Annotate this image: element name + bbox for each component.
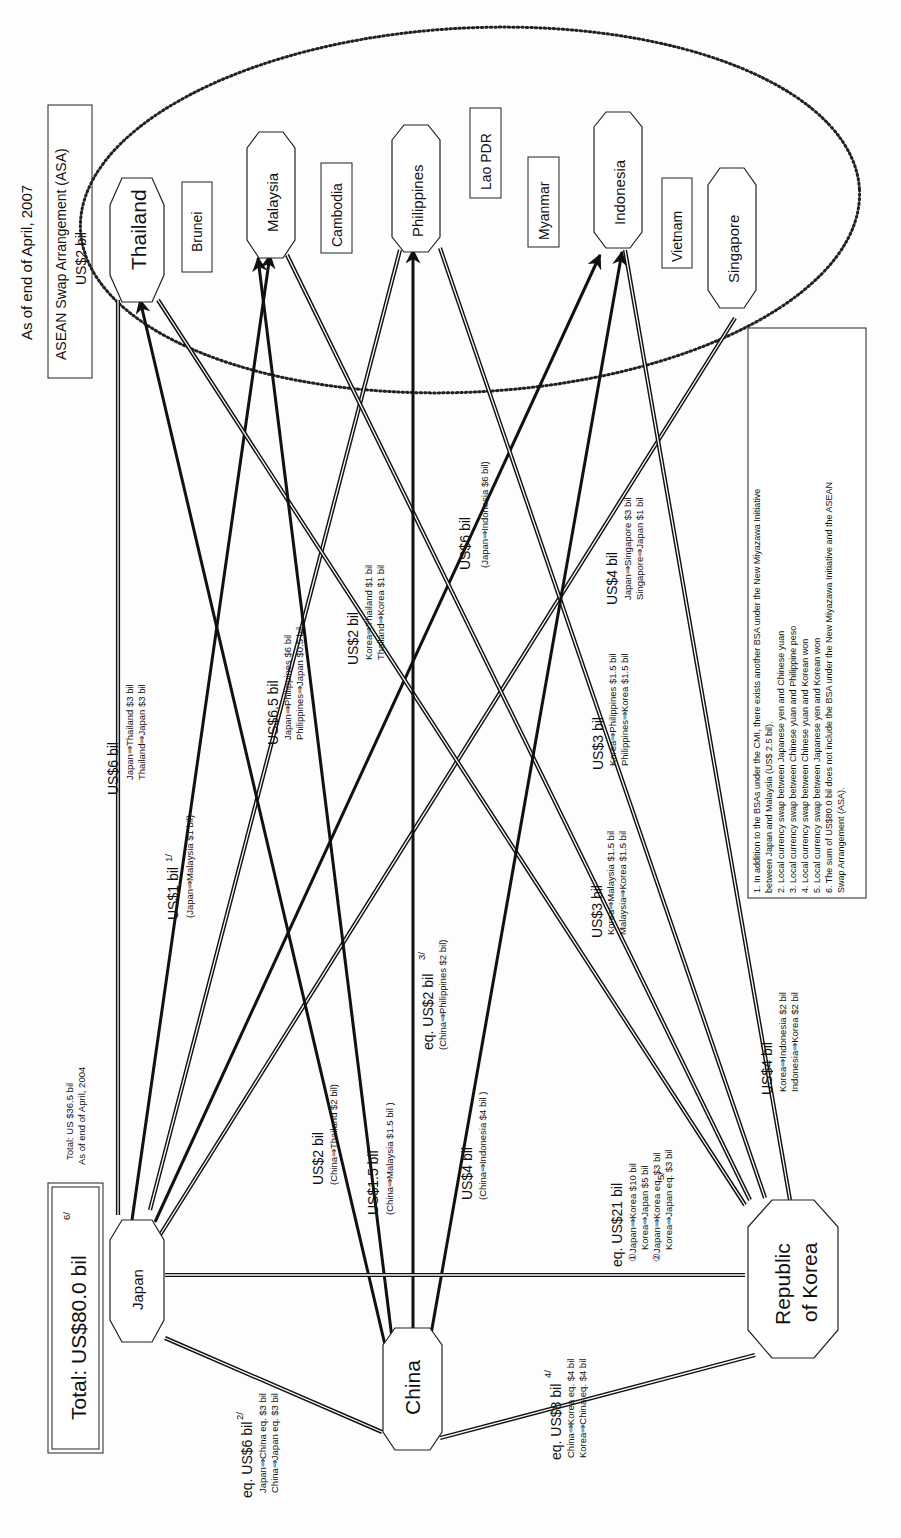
svg-text:Republic: Republic <box>771 1243 794 1325</box>
svg-text:Thailand: Thailand <box>127 189 150 270</box>
node-china: China <box>383 1328 442 1450</box>
label-japan-china: eq. US$6 bil 2/ Japan⇒China eq. $3 bil C… <box>234 1393 280 1498</box>
svg-text:Philippines⇒Japan $0.5 bil: Philippines⇒Japan $0.5 bil <box>294 627 305 740</box>
svg-text:China⇒Japan eq. $3 bil: China⇒Japan eq. $3 bil <box>269 1393 280 1493</box>
svg-text:US$3 bil: US$3 bil <box>590 717 606 770</box>
svg-text:(China⇒Philippines $2 bil): (China⇒Philippines $2 bil) <box>437 940 448 1050</box>
svg-text:2. Local currency swap betwee: 2. Local currency swap between Japanese … <box>776 631 786 893</box>
svg-text:China: China <box>401 1360 424 1415</box>
svg-text:Korea⇒Philippines $1.5 bil: Korea⇒Philippines $1.5 bil <box>607 653 618 766</box>
node-japan: Japan <box>110 1220 164 1342</box>
svg-text:5. Local currency swap betwee: 5. Local currency swap between Japanese … <box>812 638 822 893</box>
svg-text:Thailand⇒Korea $1 bil: Thailand⇒Korea $1 bil <box>375 565 386 660</box>
svg-text:Japan⇒Philippines $6 bil: Japan⇒Philippines $6 bil <box>282 635 293 740</box>
total-footnote: 6/ <box>61 1212 72 1220</box>
svg-text:Myanmar: Myanmar <box>536 181 552 240</box>
svg-text:US$1 bil: US$1 bil <box>165 867 181 920</box>
svg-text:3. Local currency swap betwee: 3. Local currency swap between Chinese y… <box>788 626 798 893</box>
svg-text:Korea⇒Malaysia $1.5 bil: Korea⇒Malaysia $1.5 bil <box>605 831 616 935</box>
svg-text:Japan⇒Singapore $3 bil: Japan⇒Singapore $3 bil <box>622 497 633 600</box>
svg-text:Korea⇒Japan eq. $3 bil: Korea⇒Japan eq. $3 bil <box>663 1150 674 1250</box>
box-brunei: Brunei <box>182 182 212 272</box>
node-singapore: Singapore <box>708 168 756 308</box>
previous-date: As of end of April, 2004 <box>76 1067 87 1165</box>
svg-text:Japan: Japan <box>129 1269 146 1310</box>
svg-text:Cambodia: Cambodia <box>329 183 345 247</box>
svg-text:US$6 bil: US$6 bil <box>457 517 473 570</box>
svg-text:Singapore: Singapore <box>725 215 742 283</box>
node-korea: Republic of Korea <box>748 1200 838 1358</box>
svg-text:eq. US$2 bil: eq. US$2 bil <box>420 974 436 1050</box>
svg-text:(China⇒Indonesia $4 bil ): (China⇒Indonesia $4 bil ) <box>477 1092 488 1200</box>
svg-text:Philippines⇒Korea $1.5 bil: Philippines⇒Korea $1.5 bil <box>619 653 630 766</box>
svg-text:US$4 bil: US$4 bil <box>759 1042 775 1095</box>
label-china-malaysia: US$1.5 bil (China⇒Malaysia $1.5 bil ) <box>365 1102 395 1215</box>
previous-total: Total: US $36.5 bil <box>64 1083 75 1160</box>
svg-text:5/: 5/ <box>655 1172 666 1180</box>
total-label: Total: US$80.0 bil <box>67 1255 90 1420</box>
label-korea-thailand: US$2 bil Korea⇒Thailand $1 bil Thailand⇒… <box>345 565 386 665</box>
svg-text:Thailand⇒Japan $3 bil: Thailand⇒Japan $3 bil <box>136 684 147 780</box>
svg-text:3/: 3/ <box>416 952 427 960</box>
svg-text:Swap Arrangement (ASA).: Swap Arrangement (ASA). <box>836 787 846 893</box>
svg-text:Indonesia⇒Korea $2 bil: Indonesia⇒Korea $2 bil <box>789 992 800 1092</box>
svg-text:(Japan⇒Malaysia $1 bil): (Japan⇒Malaysia $1 bil) <box>184 815 195 918</box>
svg-text:Brunei: Brunei <box>189 212 205 252</box>
svg-text:Korea⇒Japan $5 bil: Korea⇒Japan $5 bil <box>639 1165 650 1250</box>
cmi-bsa-diagram: As of end of April, 2007 ASEAN Swap Arra… <box>0 0 901 1538</box>
svg-text:1/: 1/ <box>163 854 174 862</box>
svg-text:of Korea: of Korea <box>798 1242 821 1322</box>
svg-text:US$1.5 bil: US$1.5 bil <box>365 1150 381 1215</box>
svg-text:US$2 bil: US$2 bil <box>310 1132 326 1185</box>
node-malaysia: Malaysia <box>247 132 295 258</box>
svg-text:Korea⇒Thailand $1 bil: Korea⇒Thailand $1 bil <box>363 565 374 660</box>
svg-text:eq. US$21 bil: eq. US$21 bil <box>609 1183 625 1267</box>
box-lao: Lao PDR <box>470 108 501 198</box>
svg-text:6. The sum of US$80.0 bil doe: 6. The sum of US$80.0 bil does not inclu… <box>824 482 834 893</box>
svg-text:Malaysia: Malaysia <box>264 172 281 232</box>
svg-text:Lao PDR: Lao PDR <box>478 133 494 190</box>
svg-text:①Japan⇒Korea $10 bil: ①Japan⇒Korea $10 bil <box>627 1163 638 1262</box>
svg-text:Indonesia: Indonesia <box>611 159 628 225</box>
svg-text:(China⇒Thailand $2 bil): (China⇒Thailand $2 bil) <box>328 1084 339 1185</box>
svg-text:Vietnam: Vietnam <box>669 211 685 262</box>
svg-text:1. In addition to the BSAs un: 1. In addition to the BSAs under the CMI… <box>752 489 762 893</box>
date-label: As of end of April, 2007 <box>18 185 35 340</box>
label-china-thailand: US$2 bil (China⇒Thailand $2 bil) <box>310 1084 339 1185</box>
svg-text:US$6.5 bil: US$6.5 bil <box>265 680 281 745</box>
node-thailand: Thailand <box>110 178 164 302</box>
box-vietnam: Vietnam <box>662 178 692 268</box>
svg-text:4. Local currency swap betwee: 4. Local currency swap between Chinese y… <box>800 639 810 893</box>
label-japan-thailand: US$6 bil Japan⇒Thailand $3 bil Thailand⇒… <box>105 684 147 795</box>
svg-text:②Japan⇒Korea eq. $3 bil: ②Japan⇒Korea eq. $3 bil <box>651 1153 662 1262</box>
box-cambodia: Cambodia <box>321 163 352 253</box>
svg-text:eq. US$6 bil: eq. US$6 bil <box>239 1422 255 1498</box>
svg-text:Japan⇒China eq. $3 bil: Japan⇒China eq. $3 bil <box>257 1393 268 1493</box>
label-japan-indonesia: US$6 bil (Japan⇒Indonesia $6 bil) <box>457 461 490 570</box>
svg-text:(Japan⇒Indonesia $6 bil): (Japan⇒Indonesia $6 bil) <box>479 461 490 568</box>
svg-text:Korea⇒Indonesia $2 bil: Korea⇒Indonesia $2 bil <box>777 992 788 1092</box>
svg-text:US$2 bil: US$2 bil <box>345 612 361 665</box>
svg-text:Philippines: Philippines <box>409 164 426 237</box>
svg-text:4/: 4/ <box>542 1370 553 1378</box>
svg-text:Malaysia⇒Korea $1.5 bil: Malaysia⇒Korea $1.5 bil <box>617 831 628 935</box>
svg-text:US$3 bil: US$3 bil <box>589 885 605 938</box>
box-myanmar: Myanmar <box>528 157 559 247</box>
svg-text:US$4 bil: US$4 bil <box>459 1147 475 1200</box>
asa-title: ASEAN Swap Arrangement (ASA) <box>53 148 69 360</box>
node-indonesia: Indonesia <box>594 112 642 248</box>
label-korea-indonesia: US$4 bil Korea⇒Indonesia $2 bil Indonesi… <box>759 992 800 1095</box>
svg-text:between Japan and Malaysia (US: between Japan and Malaysia (US$ 2.5 bil)… <box>764 721 774 893</box>
label-japan-malaysia: US$1 bil 1/ (Japan⇒Malaysia $1 bil) <box>163 815 195 920</box>
label-japan-korea: eq. US$21 bil ①Japan⇒Korea $10 bil Korea… <box>609 1150 674 1267</box>
svg-text:2/: 2/ <box>234 1412 245 1420</box>
svg-text:China⇒Korea eq. $4 bil: China⇒Korea eq. $4 bil <box>565 1359 576 1458</box>
footnotes-box: 1. In addition to the BSAs under the CMI… <box>748 328 866 898</box>
svg-text:Korea⇒China eq. $4 bil: Korea⇒China eq. $4 bil <box>577 1359 588 1458</box>
label-china-korea: eq. US$8 bil 4/ China⇒Korea eq. $4 bil K… <box>542 1359 588 1460</box>
svg-text:Japan⇒Thailand $3 bil: Japan⇒Thailand $3 bil <box>124 684 135 780</box>
label-japan-philippines: US$6.5 bil Japan⇒Philippines $6 bil Phil… <box>265 627 305 745</box>
swap-links <box>118 248 790 1438</box>
svg-text:US$6 bil: US$6 bil <box>105 742 121 795</box>
svg-text:(China⇒Malaysia $1.5 bil ): (China⇒Malaysia $1.5 bil ) <box>384 1102 395 1215</box>
